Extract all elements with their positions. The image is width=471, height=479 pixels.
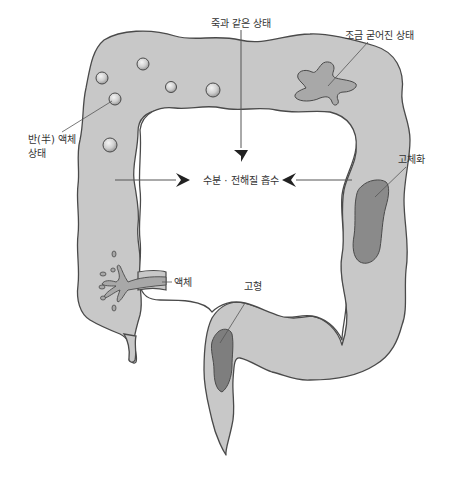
semi-liquid-ball (206, 83, 220, 97)
semi-liquid-ball (109, 93, 121, 105)
semi-liquid-ball (166, 82, 177, 93)
label-semi-liquid-line1: 반(半) 액체 (28, 133, 76, 146)
droplet (112, 251, 116, 257)
label-slightly-hardened: 조금 굳어진 상태 (345, 29, 414, 42)
label-liquid: 액체 (174, 276, 192, 289)
droplet (101, 296, 106, 300)
label-solid-form: 고형 (244, 280, 262, 293)
label-porridge-state: 죽과 같은 상태 (211, 17, 271, 30)
droplet (100, 272, 106, 276)
semi-liquid-ball (103, 138, 117, 152)
colon-diagram (0, 0, 471, 479)
semi-liquid-ball (137, 58, 149, 70)
appendix (124, 334, 136, 362)
semi-liquid-ball (96, 72, 108, 84)
droplet (112, 305, 116, 311)
label-water-absorption: 수분 · 전해질 흡수 (203, 174, 279, 187)
label-semi-liquid-line2: 상태 (28, 147, 46, 160)
label-solidification: 고체화 (398, 153, 425, 166)
droplet (99, 285, 105, 289)
droplet (111, 268, 115, 272)
